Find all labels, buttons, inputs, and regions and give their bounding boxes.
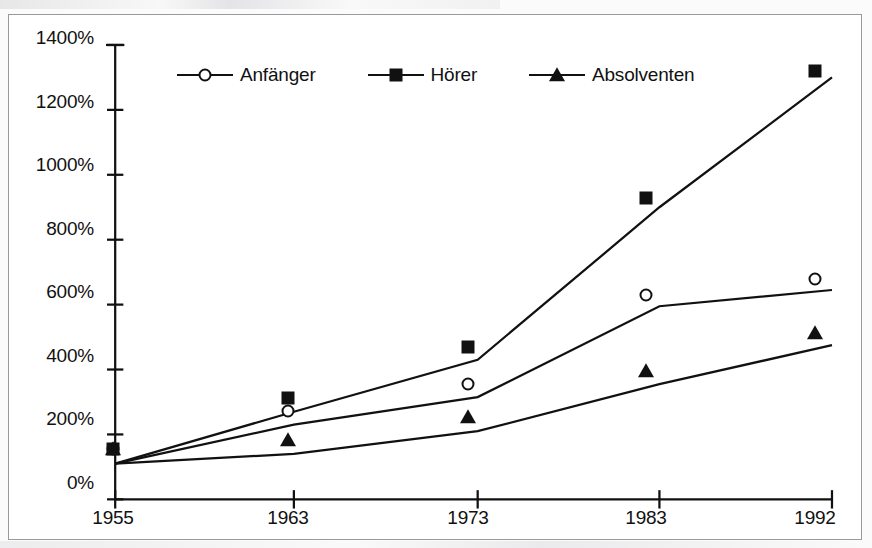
legend-item-anfaenger: Anfänger bbox=[177, 64, 316, 86]
data-point-marker bbox=[807, 325, 823, 339]
legend-marker-open-circle-icon bbox=[177, 67, 233, 83]
legend-label: Hörer bbox=[431, 64, 478, 86]
legend-item-absolventen: Absolventen bbox=[529, 64, 694, 86]
data-point-marker bbox=[809, 272, 822, 285]
data-point-marker bbox=[462, 341, 475, 354]
scan-page: 0%200%400%600%800%1000%1200%1400% 195519… bbox=[0, 0, 872, 548]
data-point-marker bbox=[282, 404, 295, 417]
legend-item-hoerer: Hörer bbox=[368, 64, 478, 86]
data-point-marker bbox=[105, 441, 121, 455]
legend-label: Anfänger bbox=[240, 64, 316, 86]
data-point-marker bbox=[462, 377, 475, 390]
data-point-marker bbox=[280, 432, 296, 446]
scan-artifact-bottom bbox=[0, 541, 872, 548]
data-point-marker bbox=[809, 64, 822, 77]
legend-label: Absolventen bbox=[592, 64, 694, 86]
series-markers bbox=[9, 15, 872, 548]
chart-legend: Anfänger Hörer Absolventen bbox=[177, 60, 694, 90]
data-point-marker bbox=[640, 288, 653, 301]
legend-marker-filled-triangle-icon bbox=[529, 67, 585, 83]
chart-frame: 0%200%400%600%800%1000%1200%1400% 195519… bbox=[8, 14, 862, 540]
data-point-marker bbox=[282, 392, 295, 405]
data-point-marker bbox=[640, 191, 653, 204]
data-point-marker bbox=[460, 410, 476, 424]
legend-marker-filled-square-icon bbox=[368, 67, 424, 83]
data-point-marker bbox=[638, 363, 654, 377]
scan-artifact-top bbox=[0, 0, 500, 9]
